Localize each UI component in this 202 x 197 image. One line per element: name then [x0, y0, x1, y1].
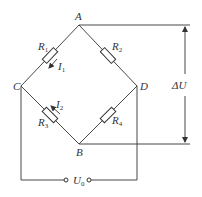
resistor-r2-label: R2 — [111, 40, 123, 54]
supply-terminal-right — [87, 178, 91, 182]
supply-voltage-label: U0 — [73, 174, 85, 188]
node-c-label: C — [13, 80, 21, 92]
resistor-r1-label: R1 — [37, 40, 49, 54]
current-i2-label: I2 — [55, 98, 64, 112]
node-b-label: B — [76, 146, 83, 158]
supply-terminal-left — [64, 178, 68, 182]
delta-u-label: ΔU — [171, 79, 187, 91]
bridge-circuit-diagram: ΔU U0 R1 R2 R3 R4 I1 I2 A C D B — [0, 0, 202, 197]
node-a-label: A — [74, 10, 82, 22]
node-d-label: D — [139, 80, 148, 92]
resistor-r3-label: R3 — [37, 116, 49, 130]
resistor-r4-label: R4 — [111, 114, 123, 128]
current-i1-label: I1 — [57, 60, 66, 74]
